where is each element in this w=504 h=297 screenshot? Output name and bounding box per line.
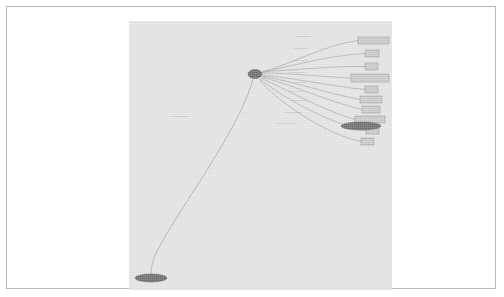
right-node — [341, 122, 381, 130]
bottom-node — [135, 274, 167, 282]
edge-hub-to-box-8 — [261, 78, 355, 120]
edge-hub-to-box-5 — [262, 75, 365, 90]
edge-label: ——— —— — [297, 35, 311, 38]
edge-hub-to-bottom — [151, 79, 253, 275]
box-node — [351, 74, 389, 82]
edge-label: ——— —— — [289, 90, 303, 93]
edge-label: ——— ——— — [285, 111, 301, 114]
edge-label: —— —— — — [294, 59, 308, 62]
edge-label: ———— —— — [172, 115, 188, 118]
edge-hub-to-box-6 — [262, 76, 360, 100]
edge-label-group: ——— —— —— —— — —— —— — ——— ——— —— —— ———… — [172, 35, 311, 125]
edge-label: —— —— — — [294, 47, 308, 50]
edge-label: ———— ——— — [277, 122, 296, 125]
edge-label: —— —— — [295, 81, 306, 84]
edge-hub-to-box-4 — [262, 73, 351, 78]
edge-label: —— —— — — [292, 99, 306, 102]
hub-node — [248, 70, 262, 79]
box-node — [358, 37, 389, 44]
box-node — [361, 138, 374, 145]
edge-hub-to-box-1 — [262, 41, 358, 73]
box-node — [365, 50, 379, 57]
edge-hub-to-box-3 — [262, 66, 365, 72]
box-node — [360, 96, 382, 103]
graph-svg: ——— —— —— —— — —— —— — ——— ——— —— —— ———… — [129, 21, 392, 290]
edge-hub-to-box-2 — [262, 54, 365, 73]
edge-label: ——— ——— — [289, 71, 305, 74]
box-node — [365, 63, 378, 70]
graph-canvas: ——— —— —— —— — —— —— — ——— ——— —— —— ———… — [129, 21, 392, 290]
image-frame: ——— —— —— —— — —— —— — ——— ——— —— —— ———… — [6, 6, 496, 289]
box-node — [365, 86, 378, 93]
box-node — [362, 106, 380, 113]
